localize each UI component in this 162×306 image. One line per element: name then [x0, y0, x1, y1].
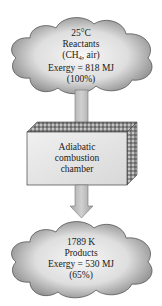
products-exergy: Exergy = 530 MJ [31, 259, 131, 270]
reactants-composition: (CH4, air) [31, 50, 131, 63]
reactants-name: Reactants [31, 39, 131, 50]
reactants-percent: (100%) [31, 74, 131, 85]
chamber-line-3: chamber [27, 164, 127, 175]
reactants-label: 25°C Reactants (CH4, air) Exergy = 818 M… [31, 28, 131, 85]
chamber-label: Adiabatic combustion chamber [27, 142, 127, 175]
products-name: Products [31, 248, 131, 259]
reactants-exergy: Exergy = 818 MJ [31, 63, 131, 74]
flow-arrow-down-icon [70, 185, 93, 218]
reactants-temperature: 25°C [31, 28, 131, 39]
chamber-line-1: Adiabatic [27, 142, 127, 153]
chamber-line-2: combustion [27, 153, 127, 164]
products-percent: (65%) [31, 270, 131, 281]
products-label: 1789 K Products Exergy = 530 MJ (65%) [31, 237, 131, 281]
products-temperature: 1789 K [31, 237, 131, 248]
